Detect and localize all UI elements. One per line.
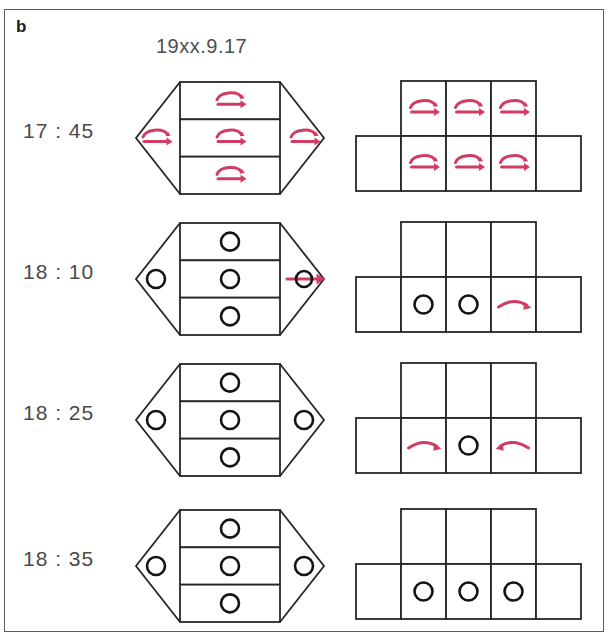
hexagon-band [180,119,280,156]
grid-cell [446,222,491,277]
grid-cell [446,81,491,136]
grid-cell [401,277,446,332]
grid-cell [401,136,446,191]
hexagon-band [180,260,280,297]
grid-cell [401,81,446,136]
grid-body [350,74,600,202]
hexagon-left-point [136,364,180,476]
diagram-row: 17 : 45 [5,68,603,208]
circle-icon [147,411,165,429]
hexagon-band [180,82,280,119]
grid-cell [491,81,536,136]
grid-cell [356,418,401,473]
grid-cell [401,418,446,473]
grid-cell [491,277,536,332]
grid-cell [446,418,491,473]
grid-diagram [350,74,600,202]
grid-cell [446,277,491,332]
hexagon-right-point [280,364,324,476]
grid-cell [536,136,581,191]
grid-cell [401,564,446,619]
grid-cell [401,363,446,418]
time-label: 18 : 25 [23,402,143,423]
hexagon-band [180,401,280,438]
circle-icon [295,557,313,575]
panel-letter: b [16,18,26,35]
circle-icon [147,270,165,288]
diagram-row: 18 : 35 [5,496,603,636]
grid-cell [491,418,536,473]
hexagon-left-point [136,223,180,335]
grid-cell [536,277,581,332]
hexagon-body [135,74,325,202]
grid-cell [491,509,536,564]
circle-icon [295,411,313,429]
hexagon-band [180,547,280,584]
grid-cell [491,136,536,191]
grid-body [350,356,600,484]
hexagon-band [180,157,280,194]
diagram-row: 18 : 10 [5,209,603,349]
grid-cell [356,136,401,191]
grid-diagram [350,215,600,343]
hexagon-left-point [136,510,180,622]
hexagon-band [180,298,280,335]
grid-cell [356,564,401,619]
grid-diagram [350,502,600,630]
time-label: 18 : 10 [23,261,143,282]
figure-title: 19xx.9.17 [156,36,247,56]
hexagon-band [180,585,280,622]
hexagon-band [180,364,280,401]
time-label: 17 : 45 [23,120,143,141]
grid-cell [446,136,491,191]
hexagon-diagram [135,356,325,484]
grid-body [350,502,600,630]
loop-arrow-icon [143,130,173,145]
grid-cell [536,418,581,473]
time-label: 18 : 35 [23,548,143,569]
figure-panel: b 19xx.9.17 17 : 45 18 : 10 18 : 25 18 :… [4,9,604,632]
hexagon-diagram [135,502,325,630]
grid-cell [491,222,536,277]
hexagon-band [180,223,280,260]
grid-cell [446,564,491,619]
hexagon-body [135,356,325,484]
hexagon-diagram [135,215,325,343]
grid-cell [491,564,536,619]
grid-cell [491,363,536,418]
grid-diagram [350,356,600,484]
hexagon-band [180,510,280,547]
grid-body [350,215,600,343]
grid-cell [446,509,491,564]
hexagon-right-point [280,82,324,194]
loop-arrow-icon [291,130,321,145]
grid-cell [356,277,401,332]
grid-cell [536,564,581,619]
hexagon-body [135,502,325,630]
hexagon-diagram [135,74,325,202]
circle-icon [147,557,165,575]
hexagon-body [135,215,325,343]
grid-cell [446,363,491,418]
diagram-row: 18 : 25 [5,350,603,490]
hexagon-right-point [280,510,324,622]
hexagon-band [180,439,280,476]
grid-cell [401,222,446,277]
grid-cell [401,509,446,564]
